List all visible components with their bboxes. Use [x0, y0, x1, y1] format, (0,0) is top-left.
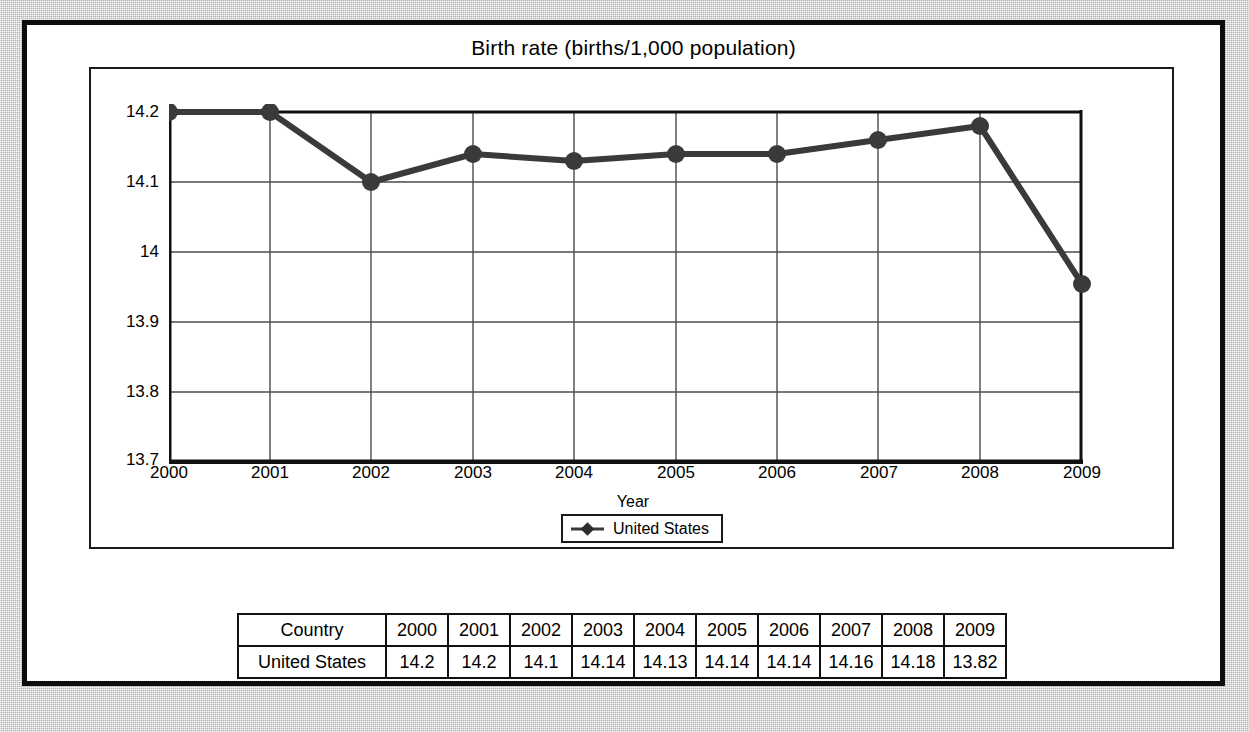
table-cell-2000: 14.2: [386, 646, 448, 678]
table-header-2001: 2001: [448, 614, 510, 646]
document-frame: Birth rate (births/1,000 population) 14.…: [22, 20, 1225, 686]
table-header-2009: 2009: [944, 614, 1006, 646]
chart-panel: Birth rate (births/1,000 population) 14.…: [89, 67, 1174, 549]
table-header-2007: 2007: [820, 614, 882, 646]
table-cell-2005: 14.14: [696, 646, 758, 678]
data-table: Country 2000 2001 2002 2003 2004 2005 20…: [237, 613, 1007, 679]
legend-marker-icon: [571, 521, 604, 537]
table-cell-2007: 14.16: [820, 646, 882, 678]
x-axis-tick-2006: 2006: [758, 463, 796, 483]
table-cell-2008: 14.18: [882, 646, 944, 678]
plot-area: [169, 112, 380, 462]
data-point-2003: [464, 145, 482, 163]
x-axis-tick-2009: 2009: [1063, 463, 1101, 483]
y-axis-tick-14.2: 14.2: [91, 102, 159, 122]
data-point-2000: [169, 104, 178, 121]
table-header-2008: 2008: [882, 614, 944, 646]
x-axis-tick-2007: 2007: [860, 463, 898, 483]
y-axis-tick-13.8: 13.8: [91, 382, 159, 402]
x-axis-tick-2008: 2008: [961, 463, 999, 483]
horizontal-gridlines: [169, 182, 1081, 392]
x-axis-tick-2003: 2003: [454, 463, 492, 483]
y-axis-tick-14: 14: [91, 242, 159, 262]
line-chart-svg: [169, 104, 1169, 464]
data-point-2004: [565, 152, 583, 170]
table-header-2004: 2004: [634, 614, 696, 646]
x-axis-tick-2005: 2005: [657, 463, 695, 483]
series-line-united-states: [169, 112, 1082, 284]
data-point-2007: [869, 131, 887, 149]
table-cell-2002: 14.1: [510, 646, 572, 678]
y-axis-tick-13.7: 13.7: [91, 450, 159, 470]
x-axis-tick-2000: 2000: [150, 463, 188, 483]
y-axis-tick-13.9: 13.9: [91, 312, 159, 332]
data-point-2008: [971, 117, 989, 135]
data-point-2006: [768, 145, 786, 163]
chart-legend: United States: [561, 514, 723, 543]
table-header-row: Country 2000 2001 2002 2003 2004 2005 20…: [238, 614, 1006, 646]
table-cell-2006: 14.14: [758, 646, 820, 678]
table-row: United States 14.2 14.2 14.1 14.14 14.13…: [238, 646, 1006, 678]
vertical-gridlines: [270, 112, 980, 462]
legend-label-united-states: United States: [613, 520, 709, 538]
table-cell-2009: 13.82: [944, 646, 1006, 678]
table-header-country: Country: [238, 614, 386, 646]
table-header-2006: 2006: [758, 614, 820, 646]
x-axis-tick-2004: 2004: [555, 463, 593, 483]
data-point-2009: [1073, 275, 1091, 293]
table-cell-country: United States: [238, 646, 386, 678]
table-header-2002: 2002: [510, 614, 572, 646]
y-axis-tick-14.1: 14.1: [91, 172, 159, 192]
table-cell-2001: 14.2: [448, 646, 510, 678]
x-axis-tick-2001: 2001: [251, 463, 289, 483]
table-header-2003: 2003: [572, 614, 634, 646]
x-axis-tick-2002: 2002: [352, 463, 390, 483]
table-header-2005: 2005: [696, 614, 758, 646]
chart-title: Birth rate (births/1,000 population): [91, 36, 1176, 60]
data-point-2005: [667, 145, 685, 163]
x-axis-title: Year: [617, 493, 649, 511]
data-point-2002: [362, 173, 380, 191]
table-cell-2004: 14.13: [634, 646, 696, 678]
table-cell-2003: 14.14: [572, 646, 634, 678]
table-header-2000: 2000: [386, 614, 448, 646]
